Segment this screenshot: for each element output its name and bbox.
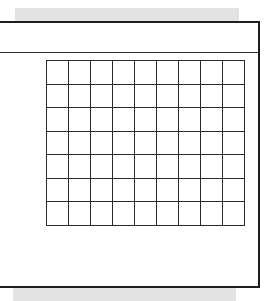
grid-cell bbox=[69, 61, 91, 85]
grid-cell bbox=[91, 155, 113, 179]
grid-cell bbox=[157, 155, 179, 179]
grid-cell bbox=[113, 61, 135, 85]
grid-cell bbox=[135, 84, 157, 108]
grid-cell bbox=[91, 131, 113, 155]
grid-cell bbox=[113, 108, 135, 132]
grid-cell bbox=[135, 155, 157, 179]
grid-cell bbox=[223, 61, 245, 85]
grid-cell bbox=[91, 84, 113, 108]
grid-row bbox=[47, 61, 245, 85]
panel-header bbox=[0, 23, 258, 53]
grid-cell bbox=[69, 202, 91, 226]
grid-cell bbox=[223, 84, 245, 108]
grid-cell bbox=[157, 84, 179, 108]
grid-cell bbox=[91, 61, 113, 85]
grid-cell bbox=[135, 202, 157, 226]
grid-cell bbox=[47, 84, 69, 108]
grid-cell bbox=[47, 202, 69, 226]
bottom-shadow-bar bbox=[13, 288, 236, 301]
grid-cell bbox=[69, 84, 91, 108]
grid-cell bbox=[135, 131, 157, 155]
grid-cell bbox=[47, 178, 69, 202]
grid-cell bbox=[201, 108, 223, 132]
grid-cell bbox=[135, 108, 157, 132]
grid-row bbox=[47, 202, 245, 226]
grid-row bbox=[47, 131, 245, 155]
grid-cell bbox=[91, 178, 113, 202]
grid-cell bbox=[201, 178, 223, 202]
grid-cell bbox=[69, 131, 91, 155]
grid-cell bbox=[223, 202, 245, 226]
grid-cell bbox=[69, 108, 91, 132]
grid-cell bbox=[179, 108, 201, 132]
grid-table bbox=[46, 60, 245, 226]
grid-cell bbox=[201, 131, 223, 155]
grid-cell bbox=[69, 155, 91, 179]
grid-cell bbox=[201, 155, 223, 179]
grid-cell bbox=[223, 178, 245, 202]
grid-cell bbox=[223, 108, 245, 132]
grid-cell bbox=[91, 108, 113, 132]
grid-cell bbox=[157, 131, 179, 155]
grid-cell bbox=[179, 61, 201, 85]
grid-cell bbox=[135, 178, 157, 202]
grid-cell bbox=[201, 84, 223, 108]
grid-cell bbox=[157, 61, 179, 85]
grid-cell bbox=[47, 61, 69, 85]
grid-cell bbox=[179, 178, 201, 202]
grid-cell bbox=[113, 155, 135, 179]
grid-cell bbox=[47, 155, 69, 179]
grid-cell bbox=[47, 131, 69, 155]
grid-row bbox=[47, 84, 245, 108]
grid-cell bbox=[223, 155, 245, 179]
grid-cell bbox=[157, 178, 179, 202]
grid-cell bbox=[113, 131, 135, 155]
grid-cell bbox=[201, 61, 223, 85]
top-shadow-bar bbox=[15, 8, 239, 21]
grid-cell bbox=[179, 155, 201, 179]
grid-cell bbox=[179, 131, 201, 155]
grid-cell bbox=[179, 84, 201, 108]
grid-cell bbox=[113, 178, 135, 202]
grid-row bbox=[47, 178, 245, 202]
grid-row bbox=[47, 108, 245, 132]
grid-cell bbox=[201, 202, 223, 226]
grid-cell bbox=[113, 202, 135, 226]
grid-panel bbox=[0, 21, 260, 288]
grid-cell bbox=[157, 108, 179, 132]
grid-cell bbox=[179, 202, 201, 226]
grid-cell bbox=[69, 178, 91, 202]
grid-row bbox=[47, 155, 245, 179]
grid-cell bbox=[113, 84, 135, 108]
grid-cell bbox=[223, 131, 245, 155]
grid-cell bbox=[157, 202, 179, 226]
grid-cell bbox=[135, 61, 157, 85]
grid-cell bbox=[91, 202, 113, 226]
grid-cell bbox=[47, 108, 69, 132]
